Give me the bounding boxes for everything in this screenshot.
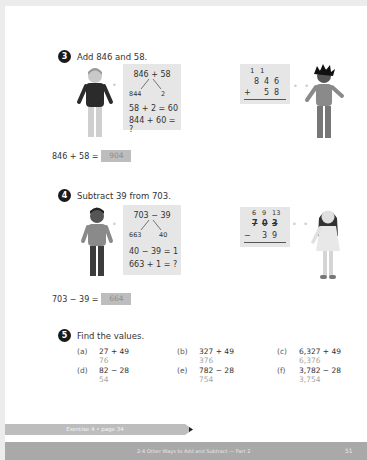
minus-sign: −: [244, 231, 251, 240]
question-3-answer: 846 + 58 = 904: [52, 150, 131, 162]
exercise-item-d: (d)82 − 28 54: [77, 366, 177, 384]
exercise-reference-bar[interactable]: Exercise 4 • page 34: [5, 424, 185, 435]
student-girl-illustration: [308, 206, 348, 284]
digit: 4: [264, 77, 274, 86]
page-footer: 2-4 Other Ways to Add and Subtract — Par…: [5, 442, 367, 460]
split-left: 663: [129, 231, 141, 239]
digit: 8: [254, 77, 264, 86]
question-number-badge: 3: [58, 50, 71, 63]
item-expression: 27 + 49: [99, 347, 129, 356]
digit: 5: [264, 88, 274, 97]
question-4-header: 4 Subtract 39 from 703.: [58, 189, 171, 202]
sum-line: [244, 99, 286, 100]
item-label: (c): [277, 347, 299, 356]
exercise-item-b: (b)327 + 49 376: [177, 347, 277, 365]
split-lines: [135, 220, 165, 230]
split-right: 2: [161, 90, 165, 98]
addend-row-1: 8 4 6: [254, 77, 284, 86]
step-2: 663 + 1 = ?: [129, 260, 177, 269]
item-answer: 754: [199, 375, 277, 384]
answer-box: 664: [101, 293, 131, 305]
crossed-digit: 0: [262, 219, 272, 228]
exercise-item-f: (f)3,782 − 28 3,754: [277, 366, 367, 384]
number-bond-panel: 846 + 58 844 2 58 + 2 = 60 844 + 60 = ?: [123, 64, 181, 130]
find-values-grid: (a)27 + 49 76 (b)327 + 49 376 (c)6,327 +…: [77, 347, 367, 384]
regroup-digit: 9: [262, 209, 272, 217]
addend-row-2: 5 8: [254, 88, 284, 97]
answer-equation: 703 − 39 =: [52, 295, 98, 304]
crossed-digit: 3: [272, 219, 282, 228]
item-answer: 6,376: [299, 356, 367, 365]
answer-box: 904: [101, 150, 131, 162]
lesson-title: 2-4 Other Ways to Add and Subtract — Par…: [137, 448, 250, 454]
question-4-answer: 703 − 39 = 664: [52, 293, 131, 305]
page-number: 51: [345, 447, 353, 454]
digit: 9: [272, 231, 282, 240]
carry-digit: 1: [260, 67, 270, 75]
regroup-digit: 13: [272, 209, 284, 217]
split-right: 40: [159, 231, 167, 239]
step-2: 844 + 60 = ?: [129, 116, 181, 134]
item-expression: 327 + 49: [199, 347, 234, 356]
digit: 6: [274, 77, 284, 86]
item-expression: 6,327 + 49: [299, 347, 341, 356]
crossed-digit: 7: [252, 219, 262, 228]
split-lines: [135, 79, 165, 89]
workbook-page: 3 Add 846 and 58. • • 846 + 58 844 2 58 …: [5, 6, 367, 460]
question-prompt: Find the values.: [77, 331, 144, 341]
student-boy-illustration: [302, 64, 347, 142]
item-expression: 782 − 28: [199, 366, 234, 375]
item-answer: 3,754: [299, 375, 367, 384]
digit: 8: [274, 88, 284, 97]
question-number-badge: 5: [58, 329, 71, 342]
regroup-row: 6 9 13: [252, 209, 284, 217]
digit: [252, 231, 262, 240]
student-girl-illustration: [75, 66, 115, 141]
item-answer: 76: [99, 356, 177, 365]
carry-row: 1 1: [250, 67, 280, 75]
column-addition-panel: 1 1 8 4 6 + 5 8: [240, 64, 290, 104]
panel-expression: 703 − 39: [123, 211, 181, 220]
difference-line: [244, 242, 286, 243]
split-left: 844: [129, 90, 141, 98]
exercise-item-a: (a)27 + 49 76: [77, 347, 177, 365]
question-prompt: Subtract 39 from 703.: [77, 191, 171, 201]
answer-equation: 846 + 58 =: [52, 152, 98, 161]
item-expression: 82 − 28: [99, 366, 129, 375]
regroup-digit: 6: [252, 209, 262, 217]
minuend-row: 7 0 3: [252, 219, 282, 228]
item-answer: 54: [99, 375, 177, 384]
step-1: 58 + 2 = 60: [129, 104, 178, 113]
question-prompt: Add 846 and 58.: [77, 52, 147, 62]
item-label: (e): [177, 366, 199, 375]
column-subtraction-panel: 6 9 13 7 0 3 − 3 9: [240, 207, 290, 247]
digit: [254, 88, 264, 97]
item-label: (d): [77, 366, 99, 375]
exercise-reference-label: Exercise 4 • page 34: [66, 426, 123, 432]
item-label: (a): [77, 347, 99, 356]
item-answer: 376: [199, 356, 277, 365]
student-boy-illustration: [77, 205, 117, 280]
plus-sign: +: [244, 88, 251, 97]
panel-expression: 846 + 58: [123, 70, 181, 79]
number-bond-panel: 703 − 39 663 40 40 − 39 = 1 663 + 1 = ?: [123, 205, 181, 275]
pencil-tip-icon: [185, 424, 195, 435]
question-number-badge: 4: [58, 189, 71, 202]
carry-digit: 1: [250, 67, 260, 75]
digit: 3: [262, 231, 272, 240]
carry-digit: [270, 67, 280, 75]
item-label: (f): [277, 366, 299, 375]
subtrahend-row: 3 9: [252, 231, 282, 240]
exercise-item-e: (e)782 − 28 754: [177, 366, 277, 384]
question-5-header: 5 Find the values.: [58, 329, 144, 342]
question-3-header: 3 Add 846 and 58.: [58, 50, 147, 63]
item-expression: 3,782 − 28: [299, 366, 341, 375]
item-label: (b): [177, 347, 199, 356]
exercise-item-c: (c)6,327 + 49 6,376: [277, 347, 367, 365]
step-1: 40 − 39 = 1: [129, 247, 178, 256]
